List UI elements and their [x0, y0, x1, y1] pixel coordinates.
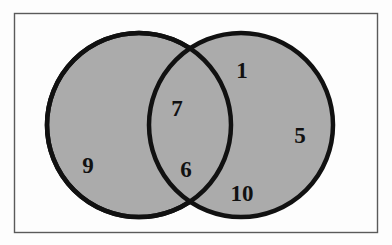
region-label-right-only-right: 5 — [294, 123, 306, 148]
region-label-intersection-lower: 6 — [180, 157, 192, 182]
region-label-intersection-upper: 7 — [171, 96, 183, 121]
diagram-canvas: 9 7 6 1 5 10 — [0, 0, 392, 245]
region-label-right-only-upper: 1 — [236, 58, 248, 83]
venn-diagram: 9 7 6 1 5 10 — [0, 0, 392, 245]
region-label-right-only-lower: 10 — [231, 181, 254, 206]
region-label-left-only: 9 — [82, 153, 94, 178]
venn-circles — [47, 33, 333, 217]
